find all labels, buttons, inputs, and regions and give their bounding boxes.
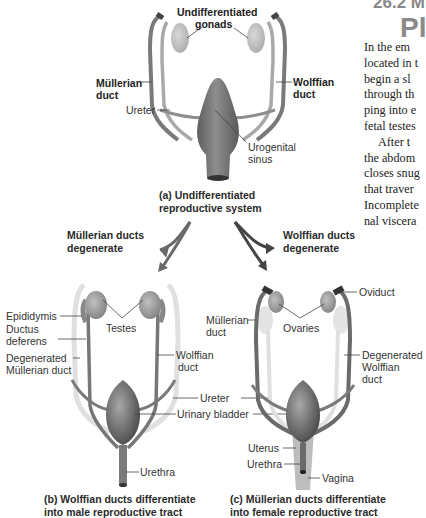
right-testis xyxy=(139,291,161,319)
female-urethra xyxy=(300,443,306,473)
left-gonad xyxy=(171,23,189,53)
urogenital-sinus xyxy=(197,78,239,180)
label-mullerian-duct-a-2: duct xyxy=(96,89,118,101)
body-line: the abdom xyxy=(364,151,424,167)
caption-b-line2: into male reproductive tract xyxy=(44,506,182,518)
label-oviduct: Oviduct xyxy=(359,286,395,298)
body-line: located in t xyxy=(364,56,424,72)
label-degenerated-mullerian: Degenerated xyxy=(6,352,67,364)
left-ovary xyxy=(268,291,284,313)
label-urinary-bladder: Urinary bladder xyxy=(177,408,249,420)
label-urethra-c: Urethra xyxy=(247,458,282,470)
male-urethra xyxy=(119,445,127,485)
body-line: fetal testes xyxy=(364,119,424,135)
caption-c-line2: into female reproductive tract xyxy=(230,506,378,518)
label-testes: Testes xyxy=(106,322,136,334)
male-urinary-bladder xyxy=(106,380,140,445)
label-wolffian-ducts-degenerate-2: degenerate xyxy=(283,242,339,255)
caption-b-line1: (b) Wolffian ducts differentiate xyxy=(44,493,195,506)
degeneration-arrows xyxy=(158,222,275,272)
label-degenerated-wolffian-2: Wolffian xyxy=(362,361,400,373)
female-urinary-bladder xyxy=(286,380,320,443)
caption-a-line2: reproductive system xyxy=(159,202,262,215)
caption-a-line1: (a) Undifferentiated xyxy=(159,189,255,202)
label-wolffian-duct-a-2: duct xyxy=(293,88,315,100)
right-gonad xyxy=(247,23,265,53)
label-urogenital-sinus-2: sinus xyxy=(248,153,273,165)
label-ureter: Ureter xyxy=(200,392,229,404)
label-urogenital-sinus: Urogenital xyxy=(248,141,296,153)
label-mullerian-duct-a: Müllerian xyxy=(96,77,142,89)
label-mullerian-duct-c-2: duct xyxy=(206,326,226,338)
label-urethra-b: Urethra xyxy=(140,466,175,478)
body-line: begin a sl xyxy=(364,72,424,88)
label-degenerated-mullerian-2: Müllerian duct xyxy=(6,364,71,376)
body-line: ping into e xyxy=(364,103,424,119)
left-testis xyxy=(85,291,107,319)
label-mullerian-ducts-degenerate: Müllerian ducts xyxy=(67,229,144,242)
label-undifferentiated: Undifferentiated xyxy=(177,6,258,18)
label-wolffian-duct-b: Wolffian xyxy=(176,349,214,361)
label-wolffian-ducts-degenerate: Wolffian ducts xyxy=(283,229,355,242)
label-degenerated-wolffian-3: duct xyxy=(362,373,382,385)
label-mullerian-ducts-degenerate-2: degenerate xyxy=(67,242,123,255)
right-ovary xyxy=(320,291,336,313)
caption-c-line1: (c) Müllerian ducts differentiate xyxy=(230,493,386,506)
label-ductus-deferens: Ductus xyxy=(6,323,39,335)
label-uterus: Uterus xyxy=(248,442,279,454)
body-line: Incomplete xyxy=(364,198,424,214)
label-gonads: gonads xyxy=(195,18,232,30)
body-line: nal viscera xyxy=(364,214,424,230)
label-vagina: Vagina xyxy=(322,472,354,484)
body-line: After t xyxy=(364,135,424,151)
label-ductus-deferens-2: deferens xyxy=(6,335,47,347)
label-ovaries: Ovaries xyxy=(283,322,319,334)
label-degenerated-wolffian: Degenerated xyxy=(362,349,423,361)
label-wolffian-duct-b-2: duct xyxy=(178,361,198,373)
body-line: that traver xyxy=(364,182,424,198)
body-line: In the em xyxy=(364,40,424,56)
label-mullerian-duct-c: Müllerian xyxy=(206,314,249,326)
body-line: closes snug xyxy=(364,166,424,182)
body-text-column: In the em located in t begin a sl throug… xyxy=(364,40,424,230)
label-wolffian-duct-a: Wolffian xyxy=(293,76,334,88)
body-line: through th xyxy=(364,87,424,103)
label-ureter-a: Ureter xyxy=(126,104,155,116)
label-epididymis: Epididymis xyxy=(6,310,57,322)
